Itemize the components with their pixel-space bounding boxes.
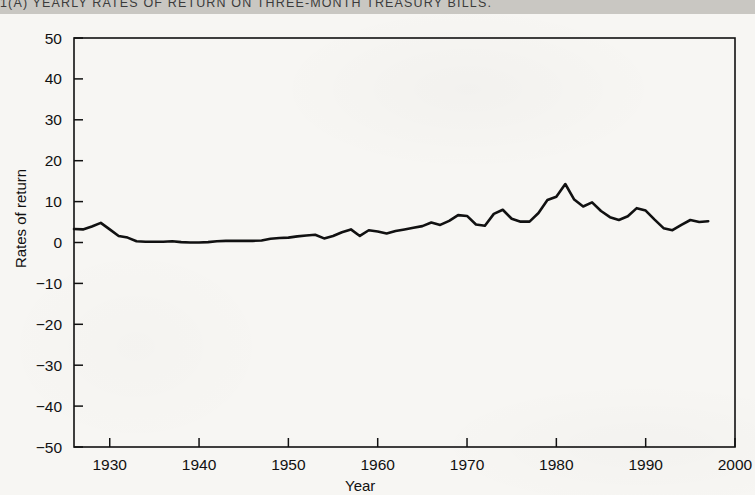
y-tick-label: −50 <box>36 439 63 456</box>
y-tick-label: 50 <box>45 30 63 47</box>
figure-title: 1(A) YEARLY RATES OF RETURN ON THREE-MON… <box>0 0 492 10</box>
series-line <box>74 184 708 242</box>
x-tick-label: 1990 <box>628 456 663 473</box>
data-series-group <box>74 184 708 242</box>
y-tick-label: 10 <box>45 193 63 210</box>
x-tick-label: 1940 <box>182 456 217 473</box>
y-tick-label: −20 <box>36 316 63 333</box>
y-axis-ticks <box>74 38 83 447</box>
y-tick-label: 40 <box>45 70 63 87</box>
x-axis-title: Year <box>345 477 375 494</box>
x-axis-ticks <box>110 438 735 447</box>
line-chart-plot: 50403020100−10−20−30−40−50 1930194019501… <box>0 14 755 495</box>
x-axis-tick-labels: 19301940195019601970198019902000 <box>92 456 752 473</box>
figure-header-band: 1(A) YEARLY RATES OF RETURN ON THREE-MON… <box>0 0 755 14</box>
x-tick-label: 1950 <box>271 456 306 473</box>
y-tick-label: −10 <box>36 275 63 292</box>
x-tick-label: 1970 <box>450 456 485 473</box>
x-tick-label: 1960 <box>360 456 395 473</box>
y-axis-tick-labels: 50403020100−10−20−30−40−50 <box>36 30 63 456</box>
x-tick-label: 1930 <box>92 456 127 473</box>
x-tick-label: 2000 <box>718 456 753 473</box>
x-tick-label: 1980 <box>539 456 574 473</box>
y-tick-label: 0 <box>53 234 62 251</box>
y-axis-title: Rates of return <box>12 159 29 279</box>
y-tick-label: 30 <box>45 111 63 128</box>
y-tick-label: −40 <box>36 398 63 415</box>
chart-area: 50403020100−10−20−30−40−50 1930194019501… <box>0 14 755 495</box>
y-tick-label: 20 <box>45 152 63 169</box>
y-tick-label: −30 <box>36 357 63 374</box>
chart-page: 1(A) YEARLY RATES OF RETURN ON THREE-MON… <box>0 0 755 495</box>
